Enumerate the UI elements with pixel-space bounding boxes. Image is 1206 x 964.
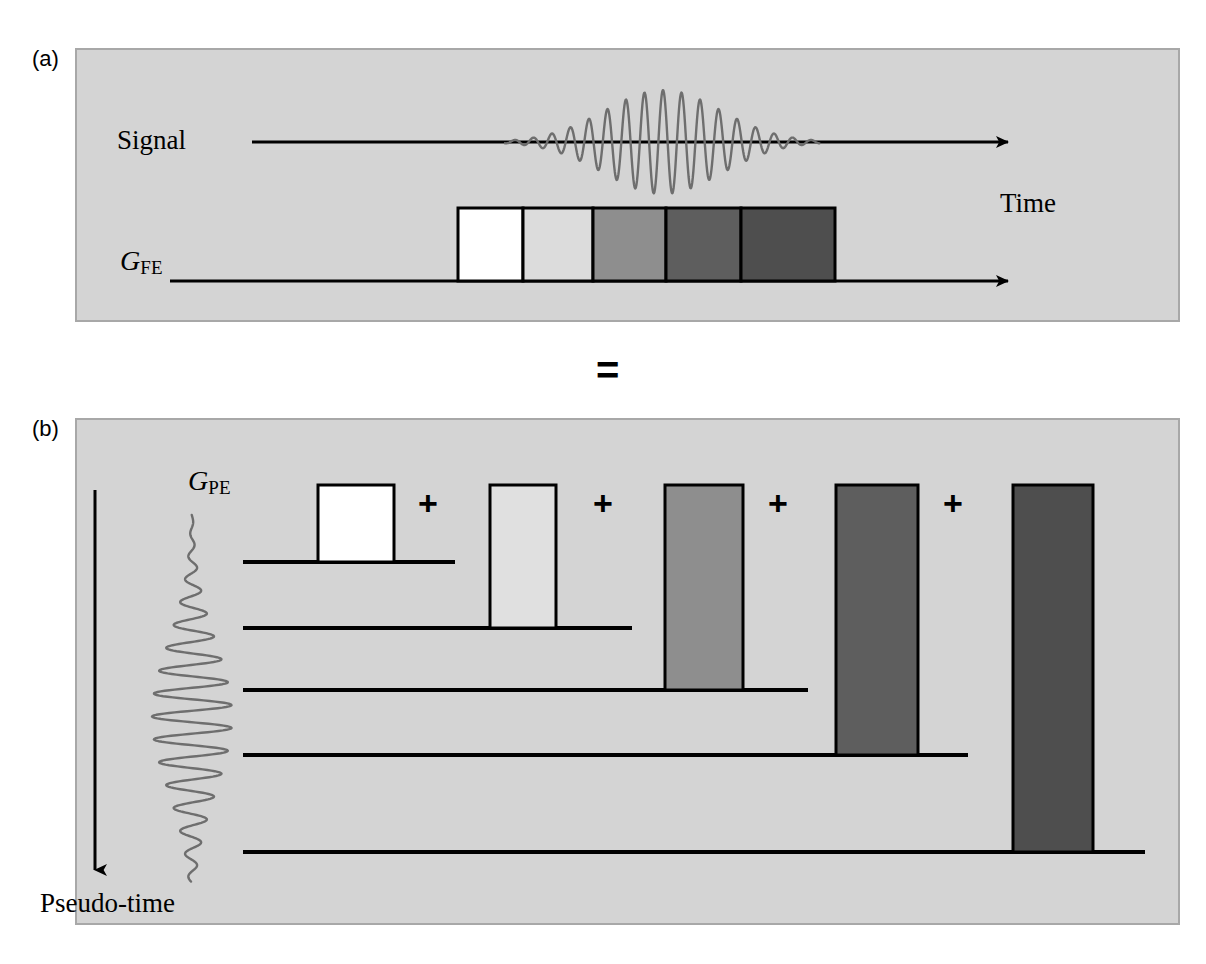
plus-operator-3: + [943, 486, 963, 520]
phase-encode-waveform [152, 515, 231, 882]
diagram-vector-layer [0, 0, 1206, 964]
gradient-block-3 [666, 208, 741, 281]
panel-b-graphics [95, 485, 1145, 882]
pe-block-0 [318, 485, 394, 562]
panel-a-graphics [170, 90, 1008, 281]
gradient-block-4 [741, 208, 835, 281]
pe-block-3 [836, 485, 918, 755]
pe-block-1 [490, 485, 556, 628]
figure-canvas: (a) (b) Signal GFE Time = GPE Pseudo-tim… [0, 0, 1206, 964]
pe-block-2 [665, 485, 743, 690]
plus-operator-1: + [593, 486, 613, 520]
gradient-block-1 [523, 208, 593, 281]
pe-block-4 [1013, 485, 1093, 852]
gradient-block-0 [458, 208, 523, 281]
plus-operator-0: + [418, 486, 438, 520]
plus-operator-2: + [768, 486, 788, 520]
gradient-block-2 [593, 208, 666, 281]
